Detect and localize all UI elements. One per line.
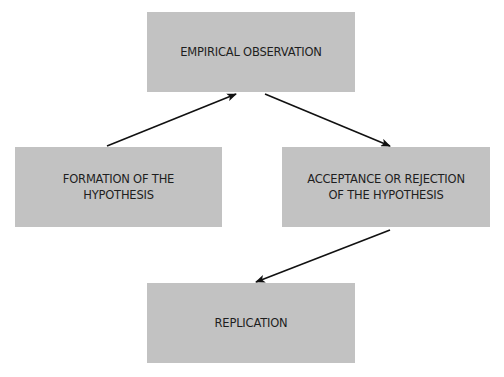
arrow-observation-to-acceptance [265, 94, 390, 146]
arrow-acceptance-to-replication [256, 230, 390, 282]
node-label-line: EMPIRICAL OBSERVATION [180, 44, 322, 60]
node-replication: REPLICATION [147, 283, 355, 363]
node-label-line: REPLICATION [215, 315, 288, 331]
node-label-line: FORMATION OF THE [63, 171, 174, 187]
node-label-line: HYPOTHESIS [63, 187, 174, 203]
node-label-line: ACCEPTANCE OR REJECTION [307, 171, 465, 187]
node-label-line: OF THE HYPOTHESIS [307, 187, 465, 203]
node-formation-of-hypothesis: FORMATION OF THE HYPOTHESIS [15, 147, 222, 227]
arrow-formation-to-observation [107, 94, 236, 146]
node-acceptance-rejection: ACCEPTANCE OR REJECTION OF THE HYPOTHESI… [282, 147, 490, 227]
node-empirical-observation: EMPIRICAL OBSERVATION [147, 12, 355, 92]
